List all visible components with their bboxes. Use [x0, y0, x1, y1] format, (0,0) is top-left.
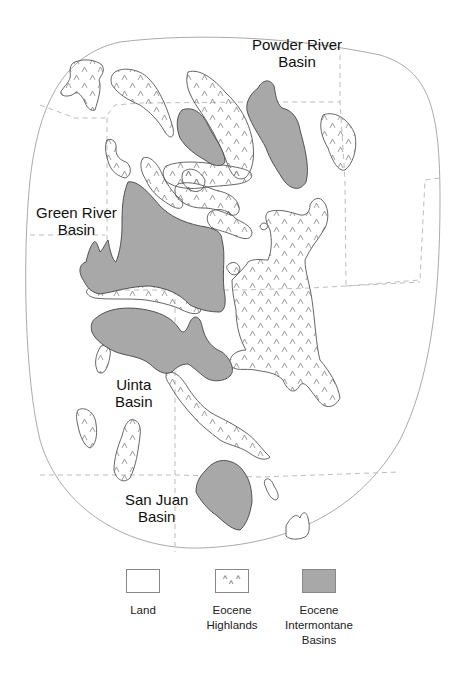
label-line: Basin [36, 221, 117, 238]
label-uinta-basin: Uinta Basin [115, 376, 153, 410]
label-line: Basin [252, 53, 342, 70]
label-line: San Juan [125, 491, 188, 508]
empty-swatch-icon [126, 569, 160, 593]
label-line: Powder River [252, 36, 342, 53]
label-green-river-basin: Green River Basin [36, 204, 117, 238]
label-line: Basin [125, 508, 188, 525]
legend-basins: Eocene Intermontane Basins [276, 569, 362, 648]
caret-icon: ^ [229, 580, 233, 589]
label-powder-river-basin: Powder River Basin [252, 36, 342, 70]
legend-label: Highlands [190, 618, 274, 633]
legend-land: Land [113, 569, 173, 618]
legend-label: Eocene [190, 603, 274, 618]
label-line: Basin [115, 393, 153, 410]
label-line: Uinta [115, 376, 153, 393]
caret-icon: ^ [223, 575, 227, 584]
legend-highlands: ^ ^ ^ Eocene Highlands [190, 569, 274, 633]
caret-icon: ^ [236, 575, 240, 584]
legend-label: Basins [276, 633, 362, 648]
label-line: Green River [36, 204, 117, 221]
legend-label: Eocene [276, 603, 362, 618]
label-san-juan-basin: San Juan Basin [125, 491, 188, 525]
caret-pattern-swatch-icon: ^ ^ ^ [215, 569, 249, 593]
legend-label: Land [113, 603, 173, 618]
legend-label: Intermontane [276, 618, 362, 633]
gray-fill-swatch-icon [302, 569, 336, 593]
